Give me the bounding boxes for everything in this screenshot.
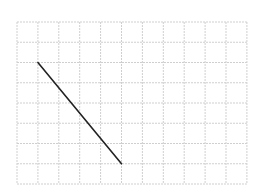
grid-lines	[17, 22, 247, 184]
grid-diagram	[0, 0, 258, 196]
